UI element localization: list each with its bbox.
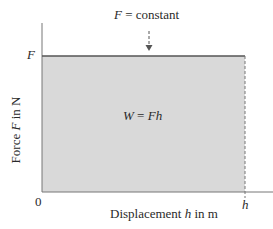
pointer-arrowhead-icon xyxy=(146,45,153,51)
top-label-var: F xyxy=(114,7,122,22)
area-label: W = Fh xyxy=(123,108,162,124)
x-tick-label: h xyxy=(242,197,249,213)
top-label-rest: = constant xyxy=(122,7,179,22)
y-tick-label: F xyxy=(27,47,35,63)
x-axis-label: Displacement h in m xyxy=(110,206,218,222)
origin-label: 0 xyxy=(35,194,42,210)
top-label: F = constant xyxy=(114,7,179,23)
work-area xyxy=(42,56,245,192)
y-axis-label: Force F in N xyxy=(8,97,24,164)
